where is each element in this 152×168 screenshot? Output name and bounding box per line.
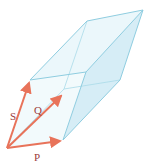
parallelepiped-diagram: S Q P xyxy=(0,0,152,168)
diagram-canvas xyxy=(0,0,152,168)
label-q: Q xyxy=(34,104,42,116)
label-p: P xyxy=(34,151,40,163)
label-s: S xyxy=(10,110,16,122)
